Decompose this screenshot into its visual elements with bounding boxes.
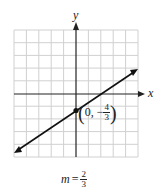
slope-label: m = 2 3 xyxy=(61,170,87,189)
line-arrow-right-icon xyxy=(130,69,138,76)
axes xyxy=(14,27,141,157)
coordinate-plane xyxy=(0,0,162,195)
y-axis-arrow-icon xyxy=(73,22,79,30)
slope-fraction: 2 3 xyxy=(80,170,87,189)
x-axis-label: x xyxy=(148,86,153,101)
line-arrow-left-icon xyxy=(14,146,22,153)
point-label: ( 0, − 4 3 ) xyxy=(78,101,117,124)
x-axis-arrow-icon xyxy=(138,91,145,97)
y-axis-label: y xyxy=(73,8,78,23)
